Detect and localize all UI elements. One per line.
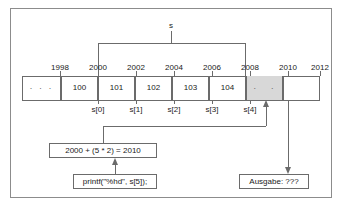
ausgabe-result-callout: Ausgabe: ???	[239, 174, 309, 189]
index-label-s3: s[3]	[197, 106, 227, 114]
address-label-5: 2008	[233, 64, 267, 72]
address-label-1: 2000	[81, 64, 115, 72]
address-label-3: 2004	[157, 64, 191, 72]
arrowhead-to-ausgabe	[285, 167, 291, 174]
address-label-4: 2006	[195, 64, 229, 72]
array-name-label: s	[161, 22, 181, 30]
printf-statement-callout: printf("%hd", s[5]);	[73, 174, 157, 189]
memory-cell-out-of-bounds-a: ·	[246, 76, 265, 100]
address-label-2: 2002	[119, 64, 153, 72]
address-calculation-callout: 2000 + (5 * 2) = 2010	[49, 143, 157, 158]
memory-cell-s2: 102	[135, 76, 172, 100]
address-label-0: 1998	[43, 64, 77, 72]
memory-cell-row: · · · 100 101 102 103 104 · ·	[22, 76, 320, 100]
index-label-s2: s[2]	[159, 106, 189, 114]
arrowhead-to-calc	[112, 158, 118, 165]
address-label-6: 2010	[271, 64, 305, 72]
memory-cell-s1: 101	[98, 76, 135, 100]
memory-cell-ellipsis: · · ·	[22, 76, 61, 100]
address-label-7: 2012	[303, 64, 337, 72]
index-label-s4: s[4]	[235, 106, 265, 114]
memory-cell-out-of-bounds-b: ·	[264, 76, 283, 100]
memory-cell-s4: 104	[209, 76, 246, 100]
memory-table: · · · 100 101 102 103 104 · ·	[22, 76, 320, 100]
index-label-s1: s[1]	[121, 106, 151, 114]
memory-cell-s0: 100	[61, 76, 98, 100]
memory-cell-s3: 103	[172, 76, 209, 100]
memory-cell-trailing	[283, 76, 320, 100]
index-label-s0: s[0]	[83, 106, 113, 114]
